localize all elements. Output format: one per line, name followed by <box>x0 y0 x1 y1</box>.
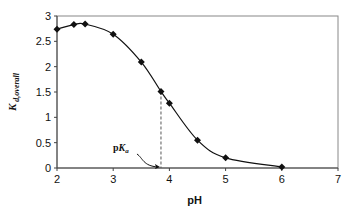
y-axis-label: K d,overall <box>6 72 21 112</box>
y-tick-label: 1.5 <box>36 86 51 98</box>
plot-frame <box>57 16 338 168</box>
data-point-diamond <box>278 163 285 170</box>
y-tick-label: 3 <box>45 10 51 22</box>
data-point-diamond <box>82 21 89 28</box>
pka-arrow <box>137 154 158 167</box>
data-point-diamond <box>157 88 164 95</box>
x-tick-label: 7 <box>335 173 341 185</box>
data-point-diamond <box>54 26 61 33</box>
y-tick-label: 0 <box>45 162 51 174</box>
data-point-diamond <box>70 21 77 28</box>
x-tick-label: 4 <box>166 173 172 185</box>
chart: 00.511.522.53234567pHK d,overallpKa <box>0 0 354 212</box>
y-tick-label: 2 <box>45 61 51 73</box>
y-tick-label: 0.5 <box>36 137 51 149</box>
x-tick-label: 5 <box>223 173 229 185</box>
x-tick-label: 6 <box>279 173 285 185</box>
y-tick-label: 2.5 <box>36 35 51 47</box>
pka-label: pKa <box>113 142 129 155</box>
y-tick-label: 1 <box>45 111 51 123</box>
data-point-diamond <box>222 154 229 161</box>
x-tick-label: 3 <box>110 173 116 185</box>
x-axis-label: pH <box>187 194 202 206</box>
x-tick-label: 2 <box>54 173 60 185</box>
data-curve <box>57 23 282 167</box>
